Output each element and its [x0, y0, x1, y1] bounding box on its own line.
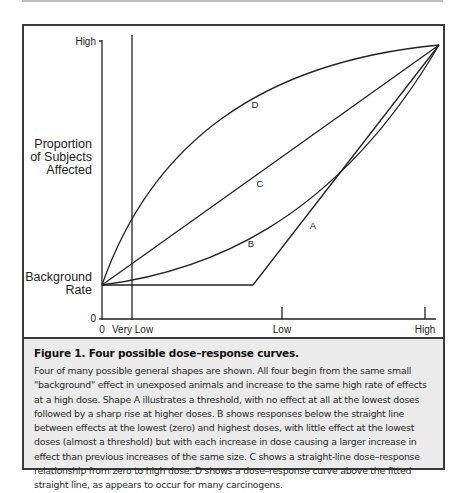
dose-response-chart: High 0 0 Very Low Low High Proportion of…	[2, 2, 465, 362]
figure-frame: High 0 0 Very Low Low High Proportion of…	[22, 24, 445, 470]
y-tick-label-zero: 0	[90, 313, 96, 324]
caption-title: Figure 1. Four possible dose–response cu…	[34, 347, 433, 359]
curve-label-a: A	[310, 220, 317, 231]
curve-label-b: B	[248, 238, 254, 249]
caption-body: Four of many possible general shapes are…	[34, 364, 433, 493]
chart-area: High 0 0 Very Low Low High Proportion of…	[24, 26, 443, 337]
x-tick-label-zero: 0	[99, 324, 105, 335]
y-axis-title-line-3: Affected	[46, 163, 92, 177]
x-tick-label-very-low: Very Low	[112, 324, 154, 335]
x-tick-label-high: High	[415, 324, 436, 335]
curve-c	[102, 45, 439, 285]
curve-label-c: C	[257, 178, 264, 189]
y-axis-title-line-1: Proportion	[34, 137, 92, 151]
y-background-label-line-1: Background	[25, 270, 92, 284]
curve-label-d: D	[252, 99, 259, 110]
y-background-label-line-2: Rate	[66, 283, 92, 297]
y-axis-title-line-2: of Subjects	[30, 150, 92, 164]
y-tick-label-high: High	[75, 36, 96, 47]
figure-caption: Figure 1. Four possible dose–response cu…	[24, 337, 443, 468]
x-tick-label-low: Low	[273, 324, 292, 335]
